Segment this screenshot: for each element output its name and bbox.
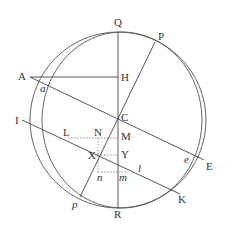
- label-I: I: [15, 114, 19, 126]
- label-l: l: [138, 162, 141, 174]
- label-K: K: [178, 193, 186, 205]
- label-C: C: [121, 111, 128, 123]
- geometry-diagram: Q P A a H C I L N M X Y n m l e E K R p: [0, 0, 226, 238]
- label-N: N: [94, 126, 102, 138]
- label-e: e: [184, 153, 189, 165]
- label-H: H: [121, 71, 129, 83]
- label-a: a: [40, 82, 46, 94]
- label-M: M: [121, 130, 131, 142]
- label-p: p: [71, 198, 78, 210]
- label-P: P: [158, 30, 164, 42]
- label-Q: Q: [114, 16, 122, 28]
- line-AE: [30, 77, 204, 160]
- label-X: X: [88, 149, 96, 161]
- label-R: R: [114, 208, 122, 220]
- label-Y: Y: [121, 148, 129, 160]
- line-Pp: [80, 42, 155, 197]
- label-E: E: [206, 160, 213, 172]
- label-m: m: [119, 171, 127, 183]
- label-L: L: [63, 126, 70, 138]
- label-n: n: [97, 171, 103, 183]
- label-A: A: [18, 70, 26, 82]
